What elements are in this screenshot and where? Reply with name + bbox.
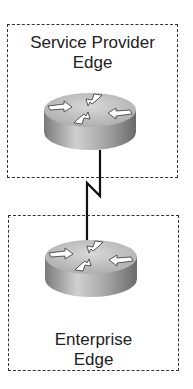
zone-label-line2: Edge xyxy=(9,350,178,370)
enterprise-edge-label: Enterprise Edge xyxy=(9,330,178,370)
router-icon xyxy=(43,237,139,301)
service-provider-edge-label: Service Provider Edge xyxy=(8,33,177,73)
router-icon xyxy=(42,90,138,154)
zone-label-line1: Service Provider xyxy=(8,33,177,53)
zone-label-line2: Edge xyxy=(8,53,177,73)
zone-label-line1: Enterprise xyxy=(9,330,178,350)
